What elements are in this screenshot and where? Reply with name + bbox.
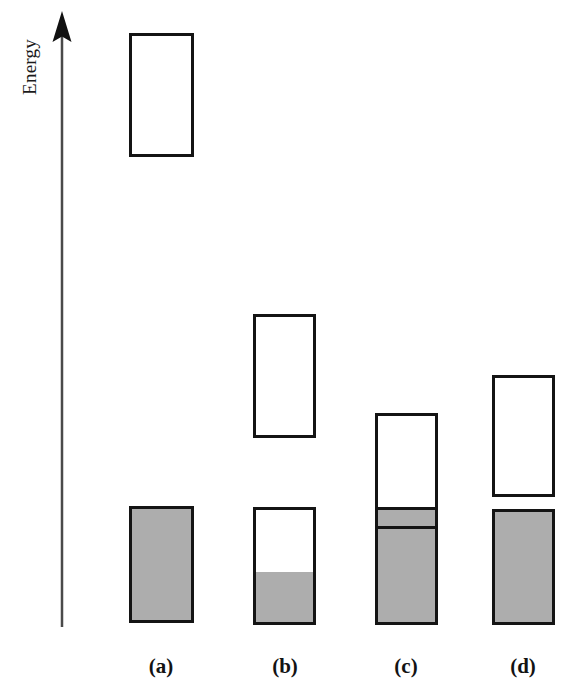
panel-b-conduction-band [253, 314, 316, 438]
panel-c-lower-divider [378, 526, 435, 529]
panel-d-valence-band-fill [495, 512, 552, 622]
panel-caption-c: (c) [366, 654, 446, 679]
panel-a-valence-band [129, 506, 194, 623]
band-structure-figure: Energy (a) (b) (c) [0, 0, 582, 695]
panel-caption-d: (d) [483, 654, 563, 679]
panel-b-valence-band [253, 507, 316, 625]
panel-caption-b: (b) [245, 654, 325, 679]
panel-c-lower-filled-band [378, 529, 435, 622]
panel-a-conduction-band [129, 33, 194, 157]
panel-c-upper-divider [378, 507, 435, 510]
panel-d-valence-band [492, 509, 555, 625]
panel-d-conduction-band [492, 375, 555, 497]
energy-axis-label: Energy [19, 25, 41, 109]
panel-a-valence-band-fill [132, 509, 191, 620]
panel-caption-a: (a) [121, 654, 201, 679]
panel-c-merged-band [375, 413, 438, 625]
panel-b-valence-band-fill [256, 572, 313, 622]
